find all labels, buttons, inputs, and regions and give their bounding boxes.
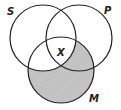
label-p: P <box>104 5 112 16</box>
label-m: M <box>89 93 99 104</box>
venn-diagram: S P M X <box>0 0 121 110</box>
marker-x: X <box>56 47 66 58</box>
label-s: S <box>7 6 14 17</box>
